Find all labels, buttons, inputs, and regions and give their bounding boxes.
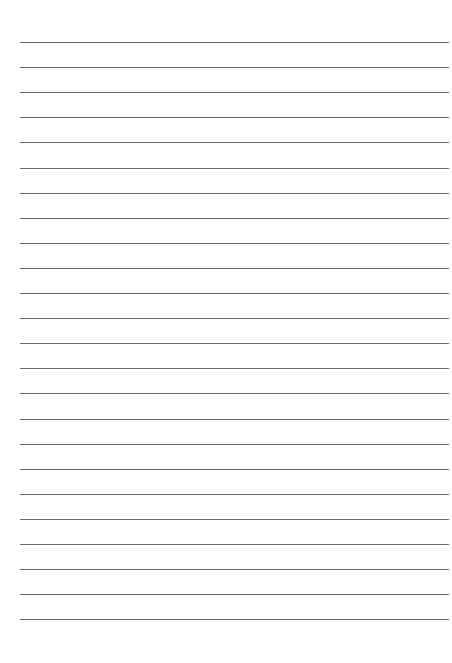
ruled-line bbox=[20, 619, 449, 621]
ruled-line bbox=[20, 218, 449, 220]
ruled-line bbox=[20, 193, 449, 195]
ruled-line bbox=[20, 117, 449, 119]
ruled-line bbox=[20, 368, 449, 370]
ruled-line bbox=[20, 268, 449, 270]
ruled-line bbox=[20, 469, 449, 471]
ruled-line bbox=[20, 318, 449, 320]
ruled-line bbox=[20, 419, 449, 421]
ruled-line bbox=[20, 92, 449, 94]
ruled-line bbox=[20, 293, 449, 295]
ruled-line bbox=[20, 343, 449, 345]
ruled-line bbox=[20, 243, 449, 245]
ruled-line bbox=[20, 168, 449, 170]
ruled-line bbox=[20, 67, 449, 69]
ruled-line bbox=[20, 519, 449, 521]
ruled-line bbox=[20, 569, 449, 571]
ruled-line bbox=[20, 142, 449, 144]
ruled-line bbox=[20, 42, 449, 44]
ruled-line bbox=[20, 393, 449, 395]
ruled-line bbox=[20, 444, 449, 446]
lined-paper-page bbox=[0, 0, 452, 663]
ruled-line bbox=[20, 494, 449, 496]
ruled-line bbox=[20, 544, 449, 546]
ruled-line bbox=[20, 594, 449, 596]
